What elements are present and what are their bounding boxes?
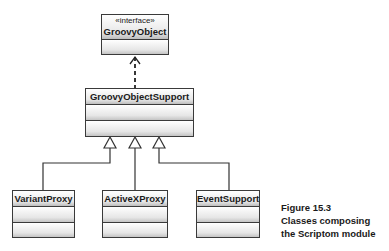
class-name: EventSupport xyxy=(197,193,259,205)
realization-arrow xyxy=(130,57,140,88)
variantproxy-connector xyxy=(43,148,110,190)
class-header: GroovyObjectSupport xyxy=(86,89,193,105)
eventsupport-connector xyxy=(159,148,229,190)
class-header: «interface» GroovyObject xyxy=(102,15,168,40)
generalization-arrows xyxy=(104,137,165,148)
class-groovyobjectsupport: GroovyObjectSupport xyxy=(85,88,194,137)
caption-line-1: Classes composing xyxy=(281,214,375,227)
operations-compartment xyxy=(197,223,259,237)
stereotype-label: «interface» xyxy=(102,16,168,26)
caption-line-2: the Scriptom module xyxy=(281,227,375,240)
class-name: VariantProxy xyxy=(13,193,74,205)
class-eventsupport: EventSupport xyxy=(196,190,260,238)
figure-number: Figure 15.3 xyxy=(281,201,375,214)
class-variantproxy: VariantProxy xyxy=(12,190,75,238)
class-activexproxy: ActiveXProxy xyxy=(102,190,168,238)
figure-caption: Figure 15.3 Classes composing the Script… xyxy=(281,201,375,240)
attributes-compartment xyxy=(197,207,259,223)
operations-compartment xyxy=(13,223,74,237)
attributes-compartment xyxy=(13,207,74,223)
class-name: GroovyObject xyxy=(102,26,168,38)
class-name: GroovyObjectSupport xyxy=(86,91,193,103)
operations-compartment xyxy=(103,223,167,237)
class-groovyobject: «interface» GroovyObject xyxy=(101,14,169,55)
class-name: ActiveXProxy xyxy=(103,193,167,205)
attributes-compartment xyxy=(86,105,193,121)
attributes-compartment xyxy=(103,207,167,223)
operations-compartment xyxy=(86,121,193,136)
operations-compartment xyxy=(102,40,168,54)
class-header: ActiveXProxy xyxy=(103,191,167,207)
class-header: VariantProxy xyxy=(13,191,74,207)
class-header: EventSupport xyxy=(197,191,259,207)
